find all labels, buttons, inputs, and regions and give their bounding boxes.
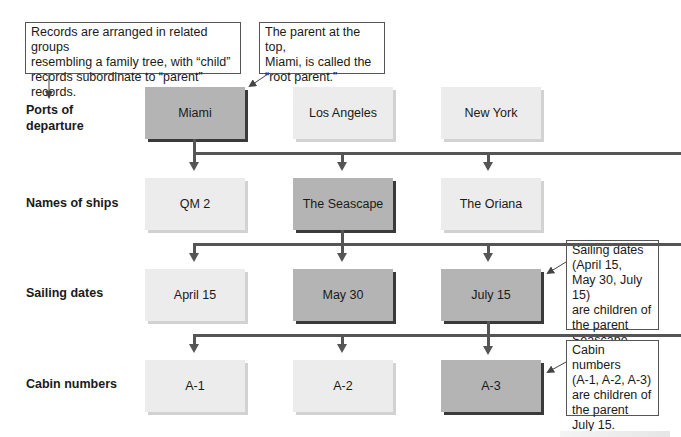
scan-artifact: [560, 431, 670, 437]
pointer-sailing-to-july15: [548, 262, 566, 273]
pointer-cabin-to-a3: [548, 362, 566, 372]
callout-pointers: [0, 0, 681, 437]
pointer-root-to-miami: [250, 74, 268, 86]
